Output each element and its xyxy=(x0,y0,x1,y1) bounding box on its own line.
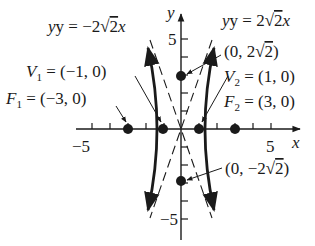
asymptote-right-label: yy = 2√2x xyxy=(220,11,290,30)
asymptote-right-radicand: 2 xyxy=(274,11,283,30)
vertex-v2-dot xyxy=(194,124,204,134)
f2-coords: = (3, 0) xyxy=(240,92,295,111)
f2-name: F xyxy=(223,92,235,111)
hyperbola-figure: −5 5 x y 5 −5 xyxy=(0,0,315,246)
asymptote-right-lhs: y = 2 xyxy=(230,11,265,30)
f1-coords: = (−3, 0) xyxy=(22,89,87,108)
point-upper-dot xyxy=(176,71,186,81)
lower-pre: (0, −2 xyxy=(225,159,266,178)
lower-post: ) xyxy=(284,159,290,178)
y-axis-label: y xyxy=(165,3,175,22)
focus-f2-dot xyxy=(230,124,240,134)
asymptote-left-lhs: y = −2 xyxy=(56,17,101,36)
point-lower-dot xyxy=(176,176,186,186)
asymptote-right-var: x xyxy=(281,11,290,30)
upper-post: ) xyxy=(273,42,279,61)
upper-radicand: 2 xyxy=(265,42,274,61)
x-axis: −5 5 x xyxy=(72,123,300,156)
vertex-v2-label: V2 = (1, 0) xyxy=(224,67,295,88)
vertex-v1-label: V1 = (−1, 0) xyxy=(26,62,106,83)
x-tick-label-pos: 5 xyxy=(266,137,275,156)
y-tick-label-pos: 5 xyxy=(168,30,177,49)
labels: yy = −2√2x yy = 2√2x V1 = (−1, 0) F1 = (… xyxy=(5,11,295,178)
focus-f2-label: F2 = (3, 0) xyxy=(223,92,295,113)
focus-f1-dot xyxy=(123,124,133,134)
asymptote-left-label: yy = −2√2x xyxy=(46,17,126,36)
y-tick-label-neg: −5 xyxy=(160,210,178,229)
v2-coords: = (1, 0) xyxy=(240,67,295,86)
upper-pre: (0, 2 xyxy=(224,42,255,61)
vertex-v1-dot xyxy=(158,124,168,134)
lower-radicand: 2 xyxy=(275,159,284,178)
x-tick-label-neg: −5 xyxy=(72,137,90,156)
asymptote-left-var: x xyxy=(117,17,126,36)
focus-f1-label: F1 = (−3, 0) xyxy=(5,89,86,110)
point-lower-label: (0, −2√2) xyxy=(225,159,289,178)
f1-name: F xyxy=(5,89,17,108)
v1-coords: = (−1, 0) xyxy=(42,62,107,81)
x-axis-label: x xyxy=(291,133,300,152)
leader-arrows xyxy=(116,55,228,180)
point-upper-label: (0, 2√2) xyxy=(224,42,279,61)
asymptote-left-radicand: 2 xyxy=(110,17,119,36)
